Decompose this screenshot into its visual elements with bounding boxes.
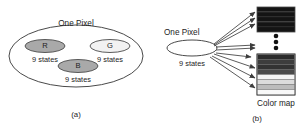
figure-container: One Pixel R 9 states G 9 states B 9 stat… <box>0 0 301 127</box>
channel-states-g: 9 states <box>97 56 123 63</box>
panel-b-caption: (b) <box>252 115 262 123</box>
panel-a-outer-label: One Pixel <box>58 20 94 28</box>
arrow-group-upper <box>214 12 255 46</box>
arrow-group-middle <box>216 45 255 57</box>
arrow-group-lower <box>210 54 255 88</box>
channel-label-g: G <box>107 42 113 50</box>
colormap-block-bottom <box>257 54 295 95</box>
channel-states-r: 9 states <box>32 56 58 63</box>
panel-b: One Pixel 9 states Color map (b) <box>152 0 301 127</box>
colormap-label: Color map <box>257 100 295 108</box>
colormap-block-top <box>257 7 295 32</box>
pixel-ellipse <box>167 40 217 56</box>
panel-a-caption: (a) <box>71 111 81 119</box>
channel-label-b: B <box>75 62 80 70</box>
channel-label-r: R <box>42 42 47 50</box>
vertical-ellipsis-dots <box>274 34 279 51</box>
channel-states-b: 9 states <box>65 76 91 83</box>
panel-b-pixel-label: One Pixel <box>164 29 200 37</box>
panel-a: One Pixel R 9 states G 9 states B 9 stat… <box>0 0 152 127</box>
panel-b-states-label: 9 states <box>179 60 205 67</box>
